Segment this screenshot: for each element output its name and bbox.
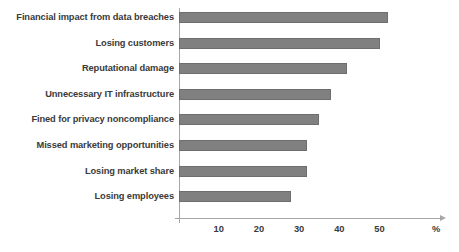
x-tick-label: 20 [244,224,274,235]
bar-chart: Financial impact from data breachesLosin… [0,0,459,252]
category-label: Missed marketing opportunities [0,140,174,150]
bar [179,63,348,74]
x-tick-label: 30 [284,224,314,235]
bar [179,114,320,125]
category-label: Unnecessary IT infrastructure [0,89,174,99]
category-label: Losing customers [0,38,174,48]
plot-area [179,8,449,218]
x-tick-label: 40 [324,224,354,235]
category-label-column: Financial impact from data breachesLosin… [0,0,174,218]
category-label: Fined for privacy noncompliance [0,114,174,124]
category-label: Reputational damage [0,63,174,73]
x-tick-label: 10 [204,224,234,235]
bar [179,89,332,100]
category-label: Financial impact from data breaches [0,12,174,22]
x-tick-label: 50 [365,224,395,235]
category-label: Losing employees [0,191,174,201]
x-axis-unit-label: % [432,224,440,235]
bar [179,166,308,177]
bar [179,191,292,202]
bar [179,38,380,49]
bar [179,12,388,23]
bar [179,140,308,151]
category-label: Losing market share [0,166,174,176]
